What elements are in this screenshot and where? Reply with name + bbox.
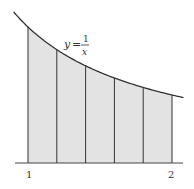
function-label-y: y [63, 38, 71, 51]
shaded-area [28, 27, 172, 163]
tick-label-2: 2 [168, 169, 174, 180]
function-label-numerator: 1 [83, 34, 89, 44]
function-label-denominator: x [82, 47, 87, 57]
riemann-area-plot: y = 1 x 1 2 [0, 0, 194, 189]
figure: y = 1 x 1 2 [0, 0, 194, 189]
function-label-equals: = [72, 38, 81, 51]
tick-label-1: 1 [26, 169, 32, 180]
